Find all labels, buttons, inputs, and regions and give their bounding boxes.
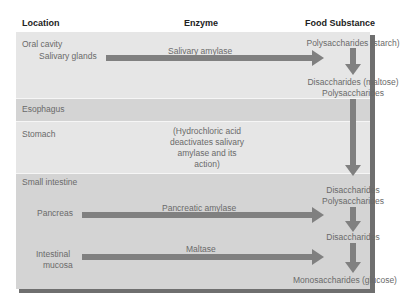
arrow-right-icon (312, 249, 324, 265)
stomach-note-line-1: (Hydrochloric acid (152, 126, 262, 136)
arrow-down-icon (345, 165, 361, 176)
header-enzyme: Enzyme (184, 18, 218, 28)
stomach-note-line-2: deactivates salivary (152, 137, 262, 147)
arrow-shaft-vertical-1 (350, 48, 356, 65)
food-disaccharides-si: Disaccharides (292, 185, 412, 195)
source-intestinal-mucosa-line-1: Intestinal (36, 249, 70, 259)
enzyme-maltase: Maltase (186, 244, 216, 254)
food-polysaccharides-starch: Polysaccharides (starch) (292, 38, 412, 48)
arrow-down-icon (345, 262, 361, 273)
arrow-shaft-maltase (82, 254, 313, 260)
arrow-right-icon (312, 207, 324, 223)
region-label-stomach: Stomach (22, 129, 56, 139)
header-location: Location (22, 18, 60, 28)
digestion-panel: Oral cavity Salivary glands Salivary amy… (16, 32, 370, 289)
arrow-shaft-vertical-3 (350, 207, 356, 222)
arrow-shaft-vertical-4 (350, 243, 356, 263)
arrow-shaft-salivary (106, 55, 313, 61)
stomach-note-line-3: amylase and its (152, 148, 262, 158)
food-disaccharides-after-pancreas: Disaccharides (292, 232, 412, 242)
source-intestinal-mucosa-line-2: mucosa (43, 260, 73, 270)
stomach-note-line-4: action) (152, 159, 262, 169)
arrow-right-icon (312, 50, 324, 66)
region-label-small-intestine: Small intestine (22, 177, 77, 187)
region-label-oral-cavity: Oral cavity (22, 39, 62, 49)
food-monosaccharides-glucose: Monosaccharides (glucose) (278, 275, 412, 285)
food-polysaccharides-si: Polysaccharides (292, 196, 412, 206)
source-pancreas: Pancreas (37, 208, 73, 218)
arrow-shaft-pancreatic (82, 212, 313, 218)
food-polysaccharides: Polysaccharides (292, 88, 412, 98)
band-esophagus (16, 99, 370, 121)
header-food-substance: Food Substance (305, 18, 375, 28)
source-salivary-glands: Salivary glands (39, 51, 97, 61)
region-label-esophagus: Esophagus (22, 104, 65, 114)
food-disaccharides-maltose: Disaccharides (maltose) (292, 77, 412, 87)
arrow-shaft-vertical-2 (350, 99, 356, 166)
arrow-down-icon (345, 64, 361, 75)
arrow-down-icon (345, 221, 361, 232)
